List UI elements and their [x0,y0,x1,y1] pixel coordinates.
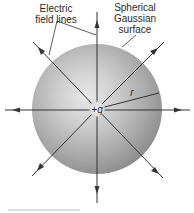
leader-surface [122,35,136,47]
gaussian-surface-diagram: +q r Electric field lines Spherical Gaus… [0,0,194,213]
arrowhead-lower-right-icon [151,167,159,174]
arrowhead-right-icon [174,108,182,113]
arrowhead-left-icon [12,108,20,113]
surface-label-line1: Spherical [114,2,156,13]
arrowhead-down-icon [95,186,100,194]
arrowhead-upper-right-icon [150,48,158,55]
surface-label-line3: surface [119,24,152,35]
surface-label-line2: Gaussian [114,13,156,24]
field-lines-label-line1: Electric [40,3,73,14]
field-lines-label-line2: field lines [35,14,77,25]
arrowhead-up-icon [95,20,100,28]
charge-label: +q [91,104,103,115]
leader-field-lines-a [49,21,57,55]
